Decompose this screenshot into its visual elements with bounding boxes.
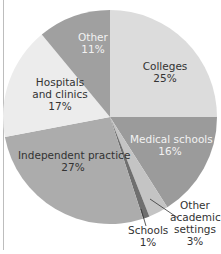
label-medical-schools: Medical schools 16% — [130, 133, 210, 157]
label-hospitals-clinics: Hospitals and clinics 17% — [20, 76, 100, 112]
label-other-academic: Other academic settings 3% — [170, 199, 220, 247]
label-other: Other 11% — [70, 31, 116, 55]
label-colleges: Colleges 25% — [135, 60, 195, 84]
label-independent-practice: Independent practice 27% — [18, 149, 128, 173]
label-schools: Schools 1% — [128, 224, 168, 248]
